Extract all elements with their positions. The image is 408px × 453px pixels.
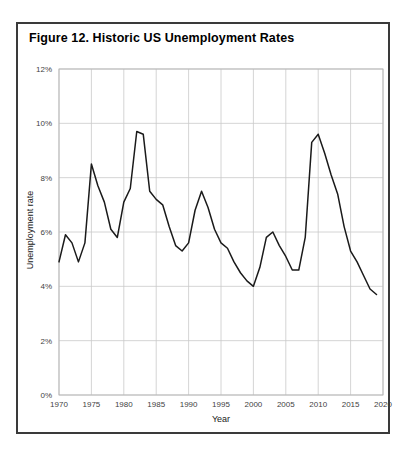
x-axis-title: Year	[59, 414, 383, 424]
figure-container: Figure 12. Historic US Unemployment Rate…	[16, 22, 390, 434]
x-axis-tick-label: 1975	[82, 400, 100, 409]
x-axis-tick-label: 1990	[180, 400, 198, 409]
unemployment-line-chart	[18, 24, 392, 436]
x-axis-tick-label: 2015	[342, 400, 360, 409]
y-axis-tick-label: 4%	[22, 282, 52, 291]
x-axis-tick-label: 1985	[147, 400, 165, 409]
x-axis-tick-label: 1970	[50, 400, 68, 409]
chart-plot-area: Unemployment rate Year 0%2%4%6%8%10%12%1…	[18, 24, 392, 436]
x-axis-tick-label: 1980	[115, 400, 133, 409]
y-axis-tick-label: 6%	[22, 228, 52, 237]
x-axis-tick-label: 2010	[309, 400, 327, 409]
x-axis-tick-label: 1995	[212, 400, 230, 409]
x-axis-tick-label: 2005	[277, 400, 295, 409]
x-axis-tick-label: 2000	[244, 400, 262, 409]
y-axis-tick-label: 2%	[22, 336, 52, 345]
x-axis-tick-label: 2020	[374, 400, 392, 409]
y-axis-tick-label: 10%	[22, 119, 52, 128]
y-axis-tick-label: 12%	[22, 65, 52, 74]
y-axis-tick-label: 0%	[22, 391, 52, 400]
y-axis-tick-label: 8%	[22, 173, 52, 182]
